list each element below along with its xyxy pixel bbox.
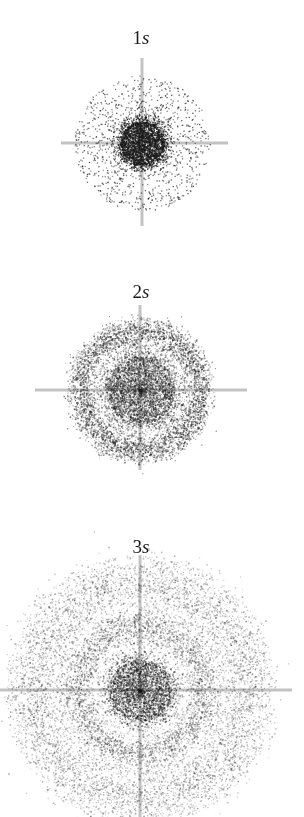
principal-number: 3 [133, 536, 143, 557]
subshell-letter: s [142, 536, 149, 557]
s-orbital-figure: 1s 2s 3s [0, 0, 304, 817]
orbital-3s-dot-plot [0, 0, 304, 817]
orbital-panel-3s: 3s [0, 0, 304, 817]
orbital-label-3s: 3s [133, 537, 150, 556]
